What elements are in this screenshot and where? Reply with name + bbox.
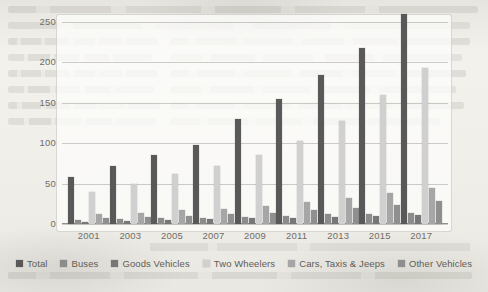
bar-group: 2005 (151, 22, 193, 224)
bar[interactable] (82, 222, 88, 224)
bar-group: 2011 (276, 22, 318, 224)
bar[interactable] (359, 48, 365, 224)
ghost-text-line (8, 6, 478, 13)
bar-group: 2015 (359, 22, 401, 224)
bar[interactable] (339, 121, 345, 224)
chart-legend: TotalBusesGoods VehiclesTwo WheelersCars… (0, 258, 488, 269)
bar[interactable] (380, 95, 386, 224)
bar[interactable] (186, 216, 192, 224)
legend-swatch-icon (60, 260, 67, 267)
bar[interactable] (270, 213, 276, 224)
ghost-text-line (8, 272, 472, 279)
legend-swatch-icon (398, 260, 405, 267)
bar[interactable] (75, 220, 81, 224)
bar[interactable] (422, 68, 428, 224)
bar[interactable] (290, 218, 296, 224)
bar[interactable] (193, 145, 199, 224)
legend-swatch-icon (111, 260, 118, 267)
bar[interactable] (387, 193, 393, 224)
bar[interactable] (117, 219, 123, 224)
legend-label: Buses (71, 258, 98, 269)
bar[interactable] (415, 215, 421, 224)
y-axis-tick-label: 200 (40, 57, 56, 68)
bar[interactable] (124, 221, 130, 224)
gridline (62, 224, 448, 225)
bar[interactable] (214, 166, 220, 224)
bar[interactable] (297, 141, 303, 224)
x-axis-tick-label: 2017 (410, 230, 432, 241)
bar[interactable] (256, 155, 262, 224)
bar[interactable] (96, 214, 102, 224)
bar[interactable] (145, 217, 151, 224)
bar[interactable] (373, 216, 379, 224)
legend-swatch-icon (16, 260, 23, 267)
bar[interactable] (138, 213, 144, 224)
bar[interactable] (103, 218, 109, 224)
bar[interactable] (207, 219, 213, 224)
bar[interactable] (235, 119, 241, 224)
bar[interactable] (158, 218, 164, 224)
legend-label: Two Wheelers (214, 258, 275, 269)
legend-item[interactable]: Goods Vehicles (111, 258, 189, 269)
bar[interactable] (325, 214, 331, 224)
bar[interactable] (283, 216, 289, 224)
bar[interactable] (263, 206, 269, 224)
bar[interactable] (304, 202, 310, 224)
legend-label: Total (27, 258, 48, 269)
legend-label: Goods Vehicles (122, 258, 189, 269)
bar[interactable] (165, 220, 171, 224)
bar[interactable] (276, 99, 282, 224)
x-axis-tick-label: 2005 (161, 230, 183, 241)
legend-label: Other Vehicles (409, 258, 472, 269)
bar-group: 2009 (234, 22, 276, 224)
bar-chart-plot: 050100150200250 200120032005200720092011… (62, 22, 448, 224)
legend-item[interactable]: Other Vehicles (398, 258, 472, 269)
y-axis-tick-label: 0 (51, 218, 56, 229)
bar[interactable] (366, 214, 372, 225)
bar[interactable] (249, 218, 255, 224)
bar[interactable] (353, 208, 359, 224)
legend-item[interactable]: Total (16, 258, 48, 269)
bar[interactable] (172, 174, 178, 224)
legend-swatch-icon (203, 260, 210, 267)
legend-item[interactable]: Cars, Taxis & Jeeps (288, 258, 385, 269)
bar[interactable] (401, 14, 407, 224)
y-axis-tick-label: 150 (40, 97, 56, 108)
bar[interactable] (311, 210, 317, 224)
bar[interactable] (151, 155, 157, 224)
bar[interactable] (228, 214, 234, 224)
bar[interactable] (408, 213, 414, 224)
bar[interactable] (68, 177, 74, 224)
y-axis-tick-label: 100 (40, 137, 56, 148)
bar[interactable] (429, 188, 435, 224)
x-axis-tick-label: 2007 (203, 230, 225, 241)
x-axis-tick-label: 2003 (119, 230, 141, 241)
bar[interactable] (332, 217, 338, 224)
x-axis-tick-label: 2011 (286, 230, 307, 241)
legend-item[interactable]: Buses (60, 258, 98, 269)
bar-group: 2003 (110, 22, 152, 224)
bar[interactable] (436, 201, 442, 224)
legend-item[interactable]: Two Wheelers (203, 258, 275, 269)
x-axis-tick-label: 2015 (369, 230, 391, 241)
legend-label: Cars, Taxis & Jeeps (299, 258, 385, 269)
bar-groups: 200120032005200720092011201320152017 (62, 22, 448, 224)
bar[interactable] (179, 210, 185, 224)
bar-group: 2013 (317, 22, 359, 224)
bar[interactable] (346, 198, 352, 224)
bar[interactable] (89, 192, 95, 224)
bar[interactable] (221, 209, 227, 224)
bar-group: 2001 (68, 22, 110, 224)
bar[interactable] (200, 218, 206, 224)
ghost-text-line (150, 243, 470, 251)
x-axis-tick-label: 2009 (244, 230, 266, 241)
bar[interactable] (131, 184, 137, 224)
y-axis-tick-label: 250 (40, 16, 56, 27)
x-axis-tick-label: 2013 (327, 230, 349, 241)
bar[interactable] (318, 75, 324, 224)
bar-group: 2007 (193, 22, 235, 224)
bar[interactable] (394, 205, 400, 224)
bar[interactable] (110, 166, 116, 224)
bar[interactable] (242, 217, 248, 224)
legend-swatch-icon (288, 260, 295, 267)
